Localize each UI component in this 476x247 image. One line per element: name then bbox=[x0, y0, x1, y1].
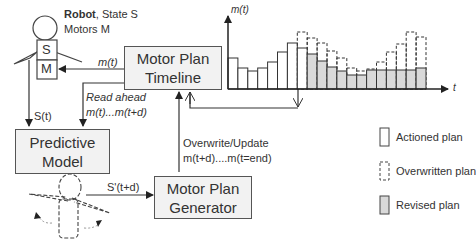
state-block-label: S bbox=[42, 42, 51, 57]
read-ahead-range-label: m(t)...m(t+d) bbox=[86, 106, 147, 118]
revised-bar bbox=[416, 68, 426, 89]
rotation-arrows-icon bbox=[34, 212, 102, 228]
predictive-model-box[interactable]: Predictive Model bbox=[15, 129, 110, 174]
predicted-robot-icon bbox=[29, 174, 110, 238]
revised-bar bbox=[367, 70, 377, 89]
timeline-line1: Motor Plan bbox=[137, 49, 210, 68]
actioned-bar bbox=[228, 58, 238, 89]
predictive-line1: Predictive bbox=[30, 133, 96, 152]
x-axis-label: t bbox=[453, 82, 456, 93]
generator-line2: Generator bbox=[169, 198, 237, 217]
overwrite-label: Overwrite/Update bbox=[183, 137, 269, 149]
revised-bar bbox=[406, 70, 416, 89]
actioned-bar bbox=[248, 71, 258, 89]
robot-title: Robot, State S bbox=[64, 8, 138, 20]
actioned-bar bbox=[287, 43, 297, 89]
motor-block-label: M bbox=[41, 61, 52, 76]
revised-bar bbox=[386, 70, 396, 89]
s-prime-label: S'(t+d) bbox=[107, 181, 139, 193]
legend-overwritten: Overwritten plan bbox=[396, 165, 476, 177]
revised-bar bbox=[307, 54, 317, 89]
overwrite-range-label: m(t+d)....m(t=end) bbox=[183, 152, 272, 164]
legend-revised: Revised plan bbox=[396, 199, 460, 211]
s-t-label: S(t) bbox=[34, 110, 52, 122]
robot-label: Robot bbox=[64, 8, 96, 20]
actioned-bar bbox=[278, 52, 288, 89]
predictive-line2: Model bbox=[42, 152, 83, 171]
revised-bar bbox=[357, 75, 367, 89]
actioned-bar bbox=[258, 68, 268, 89]
revised-bar bbox=[317, 61, 327, 89]
motors-label: Motors M bbox=[64, 23, 110, 35]
revised-bar bbox=[327, 67, 337, 89]
revised-bar bbox=[377, 70, 387, 89]
timeline-line2: Timeline bbox=[145, 68, 201, 87]
y-axis-label: m(t) bbox=[231, 4, 249, 15]
motor-plan-generator-box[interactable]: Motor Plan Generator bbox=[154, 176, 252, 219]
read-ahead-label: Read ahead bbox=[86, 91, 146, 103]
actioned-bar bbox=[297, 48, 307, 89]
actioned-bar bbox=[268, 62, 278, 89]
revised-bar bbox=[347, 75, 357, 89]
state-label: , State S bbox=[96, 8, 138, 20]
revised-bar bbox=[396, 70, 406, 89]
actioned-bar bbox=[238, 68, 248, 89]
legend-actioned: Actioned plan bbox=[396, 131, 463, 143]
revised-bar bbox=[337, 71, 347, 89]
motor-plan-chart bbox=[228, 32, 426, 89]
m-t-label: m(t) bbox=[98, 56, 118, 68]
generator-line1: Motor Plan bbox=[167, 179, 240, 198]
motor-plan-timeline-box[interactable]: Motor Plan Timeline bbox=[124, 46, 222, 90]
